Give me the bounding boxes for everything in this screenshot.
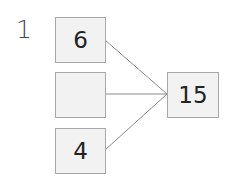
part-box-1: 6 bbox=[55, 17, 106, 63]
part-box-2-empty[interactable] bbox=[55, 72, 106, 118]
part-box-3: 4 bbox=[55, 128, 106, 174]
whole-box: 15 bbox=[167, 72, 219, 118]
